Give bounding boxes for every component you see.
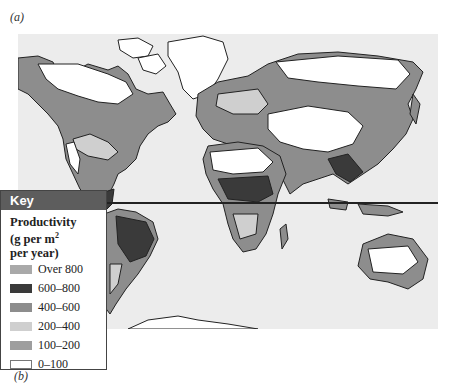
key-item-600-800: 600–800 <box>1 279 106 298</box>
swatch-icon <box>10 322 32 331</box>
antarctica <box>128 316 258 329</box>
key-title-line2: (g per m2 <box>10 229 106 246</box>
swatch-icon <box>10 265 32 274</box>
productivity-key: Key Productivity (g per m2 per year) Ove… <box>0 190 107 370</box>
key-item-label: 200–400 <box>38 319 80 334</box>
panel-label-b: (b) <box>14 369 28 384</box>
key-header: Key <box>1 191 106 210</box>
key-item-label: 600–800 <box>38 281 80 296</box>
key-item-label: 400–600 <box>38 300 80 315</box>
swatch-icon <box>10 303 32 312</box>
key-title-line1: Productivity <box>10 215 106 229</box>
swatch-icon <box>10 284 32 293</box>
key-title: Productivity (g per m2 per year) <box>1 210 106 260</box>
key-item-100-200: 100–200 <box>1 336 106 355</box>
swatch-icon <box>10 341 32 350</box>
key-title-exponent: 2 <box>55 231 59 240</box>
key-item-label: 0–100 <box>38 357 68 372</box>
key-item-label: Over 800 <box>38 262 83 277</box>
key-title-unit: (g per m <box>10 232 55 246</box>
key-item-400-600: 400–600 <box>1 298 106 317</box>
key-item-over-800: Over 800 <box>1 260 106 279</box>
key-item-label: 100–200 <box>38 338 80 353</box>
key-title-line3: per year) <box>10 246 106 260</box>
key-item-200-400: 200–400 <box>1 317 106 336</box>
panel-label-a: (a) <box>10 10 24 25</box>
swatch-icon <box>10 360 32 369</box>
